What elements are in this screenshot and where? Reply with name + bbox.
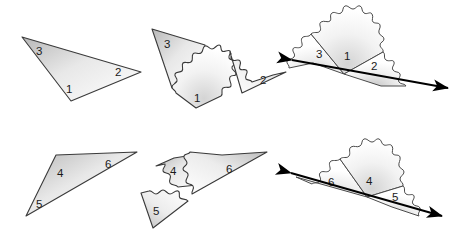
- panel-row2-torn-pieces: 4 6 5: [141, 152, 267, 228]
- torn-piece-5: [141, 190, 188, 228]
- angle-label-5: 5: [36, 198, 42, 210]
- line-label-4: 4: [366, 175, 373, 187]
- line-label-6: 6: [328, 176, 334, 188]
- torn-label-1: 1: [194, 92, 200, 104]
- angle-label-2: 2: [115, 66, 121, 78]
- panel-row2-whole-triangle: 4 6 5: [26, 152, 137, 216]
- line-label-3: 3: [316, 48, 322, 60]
- angle-label-3: 3: [36, 45, 42, 57]
- torn-label-3: 3: [164, 38, 170, 50]
- torn-piece-2: [230, 52, 286, 93]
- angle-label-4: 4: [57, 167, 64, 179]
- torn-label-2: 2: [260, 74, 266, 86]
- torn-label-5: 5: [153, 205, 159, 217]
- panel-row1-torn-pieces: 3 1 2: [152, 29, 286, 108]
- angle-label-6: 6: [105, 158, 111, 170]
- triangle-shape-456: [26, 152, 137, 216]
- panel-row2-assembled-line: 6 4 5: [291, 139, 442, 216]
- angle-label-1: 1: [66, 83, 72, 95]
- panel-row1-whole-triangle: 3 2 1: [22, 37, 141, 101]
- line-label-2: 2: [371, 60, 377, 72]
- figure-root: 3 2 1 3 1 2 3 1 2: [0, 0, 462, 241]
- line-label-1: 1: [344, 50, 350, 62]
- torn-label-4: 4: [170, 165, 177, 177]
- torn-label-6: 6: [226, 163, 232, 175]
- torn-piece-6: [183, 152, 267, 194]
- triangle-angle-sum-figure: 3 2 1 3 1 2 3 1 2: [0, 0, 462, 241]
- panel-row1-assembled-line: 3 1 2: [287, 6, 448, 88]
